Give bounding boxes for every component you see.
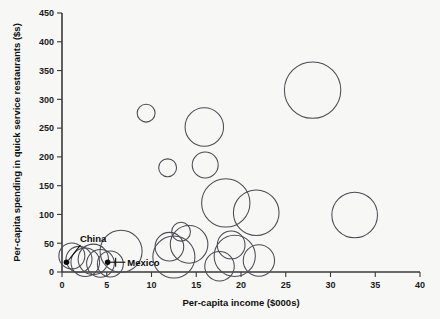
y-tick-label: 200 [39, 152, 54, 162]
bubble-series [59, 62, 378, 281]
bubble-point [202, 179, 250, 227]
x-tick-label: 20 [236, 280, 246, 290]
y-tick-label: 300 [39, 95, 54, 105]
axes: 0501001502002503003504004500510152025303… [39, 8, 425, 290]
x-tick-label: 35 [370, 280, 380, 290]
annotation-dot [105, 259, 111, 265]
bubble-point [170, 226, 208, 264]
bubble-point [185, 108, 223, 146]
bubble-point [332, 192, 378, 238]
bubble-point [284, 62, 340, 118]
y-tick-label: 150 [39, 181, 54, 191]
bubble-chart: 0501001502002503003504004500510152025303… [0, 0, 440, 319]
y-tick-label: 50 [44, 239, 54, 249]
bubble-point [78, 244, 108, 274]
y-tick-label: 100 [39, 210, 54, 220]
x-tick-label: 10 [146, 280, 156, 290]
x-axis-title: Per-capita income ($000s) [182, 297, 299, 308]
bubble-point [214, 235, 255, 276]
annotation-dot [64, 259, 70, 265]
y-tick-label: 0 [49, 267, 54, 277]
bubble-point [192, 152, 218, 178]
x-tick-label: 40 [415, 280, 425, 290]
y-tick-label: 400 [39, 37, 54, 47]
x-tick-label: 0 [59, 280, 64, 290]
y-tick-label: 450 [39, 8, 54, 18]
x-tick-label: 30 [325, 280, 335, 290]
y-axis-title: Per-capita spending in quick service res… [11, 23, 22, 262]
chart-page: 0501001502002503003504004500510152025303… [0, 0, 440, 319]
x-tick-label: 15 [191, 280, 201, 290]
x-tick-label: 25 [281, 280, 291, 290]
x-tick-label: 5 [104, 280, 109, 290]
annotation-label: Mexico [127, 257, 159, 268]
bubble-point [137, 104, 155, 122]
annotation-label: China [80, 233, 107, 244]
bubble-point [159, 159, 177, 177]
y-tick-label: 250 [39, 123, 54, 133]
y-tick-label: 350 [39, 66, 54, 76]
bubble-point [233, 190, 279, 236]
bubble-point [205, 251, 235, 281]
